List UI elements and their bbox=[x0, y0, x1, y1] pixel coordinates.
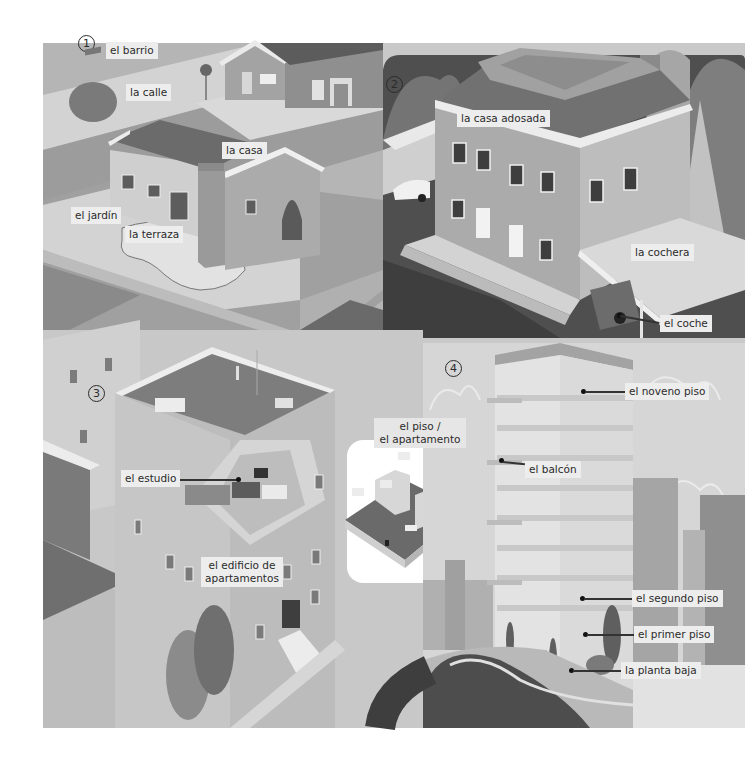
label-el-balcon: el balcón bbox=[525, 461, 581, 478]
label-la-casa: la casa bbox=[222, 142, 267, 159]
panel-2-townhouse bbox=[383, 48, 745, 338]
label-el-primer-piso: el primer piso bbox=[634, 626, 714, 643]
label-el-piso-el-apartamento: el piso / el apartamento bbox=[374, 418, 466, 448]
label-la-cochera: la cochera bbox=[631, 244, 694, 261]
label-la-casa-adosada: la casa adosada bbox=[457, 110, 550, 127]
label-la-planta-baja: la planta baja bbox=[621, 662, 701, 679]
panel-number-3: 3 bbox=[88, 385, 105, 402]
label-line-2: el apartamento bbox=[378, 433, 462, 446]
label-la-calle: la calle bbox=[126, 84, 171, 101]
pointer-line-noveno bbox=[585, 391, 625, 393]
label-el-noveno-piso: el noveno piso bbox=[625, 383, 709, 400]
label-el-estudio: el estudio bbox=[121, 470, 180, 487]
panel-number-4: 4 bbox=[445, 360, 462, 377]
pointer-line-planta-baja bbox=[573, 670, 621, 672]
label-el-segundo-piso: el segundo piso bbox=[632, 590, 723, 607]
label-line-2: apartamentos bbox=[205, 572, 279, 585]
pointer-line-segundo bbox=[584, 598, 632, 600]
label-line-1: el piso / bbox=[378, 420, 462, 433]
housing-vocabulary-illustration: 1 2 3 4 el barrio la calle la casa el ja… bbox=[0, 0, 749, 767]
panel-1-house bbox=[43, 40, 383, 343]
pointer-line-primer bbox=[587, 634, 634, 636]
label-el-edificio-de-apartamentos: el edificio de apartamentos bbox=[201, 557, 283, 587]
panel-number-2: 2 bbox=[386, 76, 403, 93]
label-el-coche: el coche bbox=[660, 315, 712, 332]
label-el-jardin: el jardín bbox=[71, 207, 121, 224]
label-el-barrio: el barrio bbox=[106, 42, 158, 59]
label-line-1: el edificio de bbox=[205, 559, 279, 572]
pointer-dot-estudio bbox=[236, 477, 241, 482]
label-la-terraza: la terraza bbox=[125, 226, 183, 243]
pointer-line-estudio bbox=[180, 479, 237, 481]
